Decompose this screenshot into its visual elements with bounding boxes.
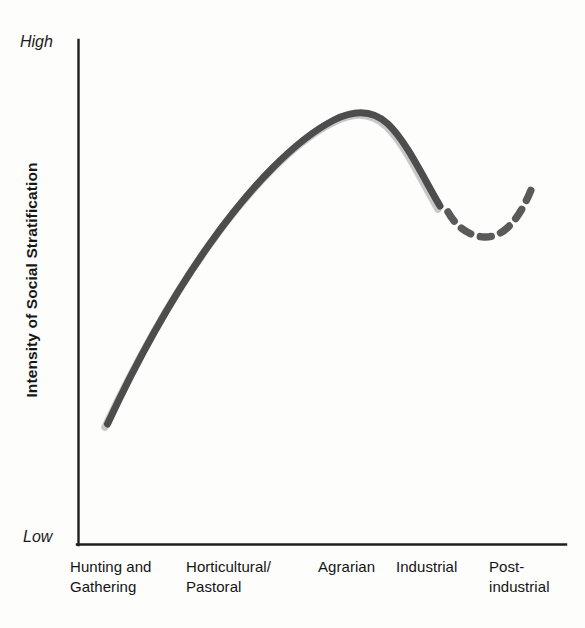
x-axis-label-agrarian: Agrarian [318, 557, 375, 577]
chart-figure: Intensity of Social Stratification High … [0, 0, 585, 628]
x-axis-label-hunting-gathering: Hunting and Gathering [70, 557, 151, 597]
x-axis-label-post-industrial: Post- industrial [489, 557, 550, 597]
x-axis-label-horticultural-pastoral: Horticultural/ Pastoral [186, 557, 271, 597]
plot-area [0, 0, 585, 628]
stratification-curve-dashed [448, 190, 531, 237]
stratification-curve-solid [108, 113, 441, 424]
stratification-curve-shadow [105, 115, 438, 427]
x-axis-label-industrial: Industrial [396, 557, 457, 577]
